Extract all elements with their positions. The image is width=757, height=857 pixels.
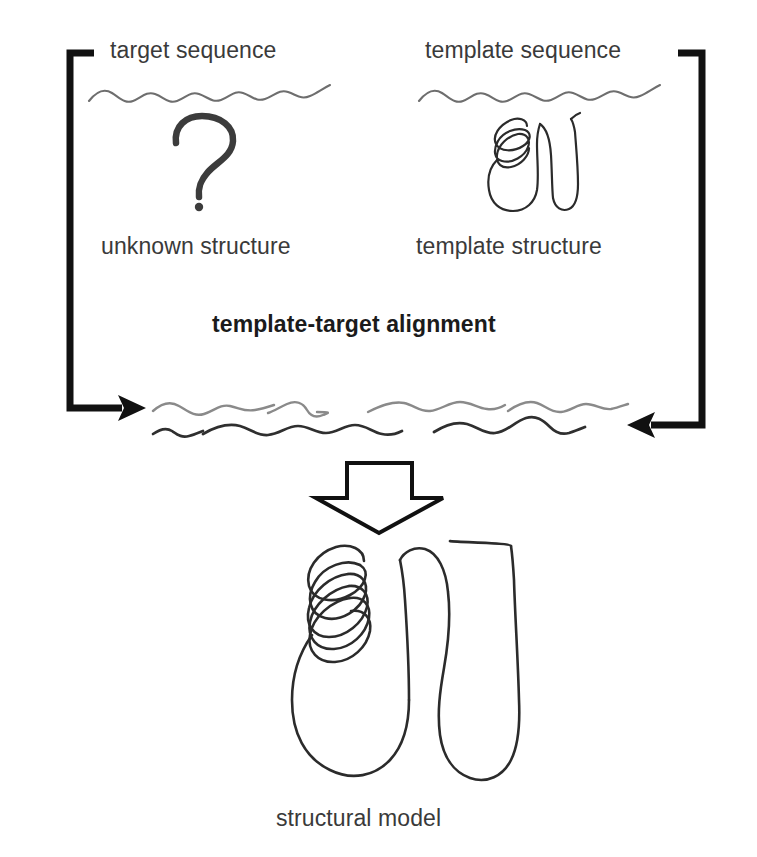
- label-template-target-alignment: template-target alignment: [212, 312, 496, 337]
- figure-canvas: target sequence template sequence unknow…: [0, 0, 757, 857]
- bracket-right-down-arrow: [627, 53, 702, 438]
- structural-model-icon: [292, 541, 519, 780]
- hollow-down-arrow-icon: [316, 463, 443, 533]
- alignment-row-template: [153, 417, 585, 437]
- diagram-graphics: [0, 0, 757, 857]
- alignment-row-target: [153, 402, 628, 417]
- question-mark-icon: [176, 116, 233, 211]
- template-sequence-wave-icon: [419, 85, 660, 102]
- label-target-sequence: target sequence: [110, 38, 276, 63]
- label-structural-model: structural model: [276, 806, 441, 831]
- label-template-structure: template structure: [416, 234, 602, 259]
- label-unknown-structure: unknown structure: [101, 234, 291, 259]
- template-structure-icon: [488, 113, 580, 211]
- target-sequence-wave-icon: [89, 85, 330, 102]
- label-template-sequence: template sequence: [425, 38, 621, 63]
